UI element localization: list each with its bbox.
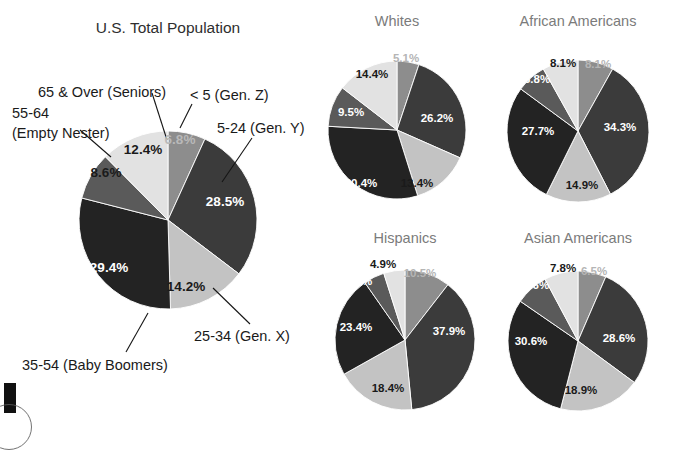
page-title: U.S. Total Population <box>96 19 240 36</box>
pie-hispanics-slices <box>335 270 475 410</box>
title-african-americans: African Americans <box>520 13 637 29</box>
value-main-seniors: 12.4% <box>124 142 162 157</box>
value-african-gen-x: 14.9% <box>566 179 599 191</box>
value-asian-gen-z: 6.5% <box>581 265 607 277</box>
leader-gen-x <box>213 288 250 324</box>
callout-empty-nester-line2: (Empty Nester) <box>12 125 110 141</box>
value-african-empty-nester: 6.8% <box>524 73 550 85</box>
value-main-boomers: 29.4% <box>90 260 128 275</box>
value-main-gen-y: 28.5% <box>206 194 244 209</box>
value-hispanics-boomers: 23.4% <box>340 321 373 333</box>
value-hispanics-gen-y: 37.9% <box>433 325 466 337</box>
value-african-gen-z: 8.1% <box>585 58 611 70</box>
value-hispanics-gen-z: 10.5% <box>404 267 437 279</box>
callout-gen-y: 5-24 (Gen. Y) <box>217 120 305 136</box>
chart-asian-americans: Asian Americans 6.5% 28.6% 18.9% 30.6% 7… <box>508 230 648 411</box>
value-main-gen-z: 6.8% <box>165 132 196 147</box>
title-whites: Whites <box>375 13 419 29</box>
title-asian-americans: Asian Americans <box>524 230 632 246</box>
chart-african-americans: African Americans 8.1% 34.3% 14.9% 27.7%… <box>507 13 649 202</box>
title-hispanics: Hispanics <box>374 230 437 246</box>
chart-whites: Whites 5.1% 26.2% 13.4% 30.4% 9.5% 14.4% <box>328 13 466 199</box>
value-whites-seniors: 14.4% <box>356 68 389 80</box>
value-whites-empty-nester: 9.5% <box>338 106 364 118</box>
value-whites-gen-y: 26.2% <box>421 112 454 124</box>
value-african-gen-y: 34.3% <box>604 121 637 133</box>
value-main-empty-nester: 8.6% <box>91 165 122 180</box>
callout-empty-nester-line1: 55-64 <box>12 105 49 121</box>
chart-hispanics: Hispanics 10.5% 37.9% 18.4% 23.4% 4.8% 4… <box>335 230 475 410</box>
value-hispanics-empty-nester: 4.8% <box>346 275 372 287</box>
value-hispanics-seniors: 4.9% <box>370 258 396 270</box>
value-whites-boomers: 30.4% <box>345 177 378 189</box>
callout-boomers: 35-54 (Baby Boomers) <box>22 357 168 373</box>
value-asian-gen-y: 28.6% <box>603 332 636 344</box>
value-asian-gen-x: 18.9% <box>565 384 598 396</box>
value-asian-empty-nester: 7.6% <box>523 279 549 291</box>
value-main-gen-x: 14.2% <box>167 279 205 294</box>
value-whites-gen-x: 13.4% <box>401 177 434 189</box>
callout-gen-x: 25-34 (Gen. X) <box>194 328 290 344</box>
leader-boomers <box>126 313 148 352</box>
value-whites-gen-z: 5.1% <box>393 52 419 64</box>
value-african-boomers: 27.7% <box>522 125 555 137</box>
value-hispanics-gen-x: 18.4% <box>372 382 405 394</box>
leader-gen-z <box>180 104 192 128</box>
value-asian-boomers: 30.6% <box>515 335 548 347</box>
chart-us-total-population: U.S. Total Population 65 & Over (Seniors… <box>12 19 305 373</box>
callout-gen-z: < 5 (Gen. Z) <box>190 87 269 103</box>
value-asian-seniors: 7.8% <box>550 262 576 274</box>
value-african-seniors: 8.1% <box>550 57 576 69</box>
callout-seniors: 65 & Over (Seniors) <box>38 84 166 100</box>
